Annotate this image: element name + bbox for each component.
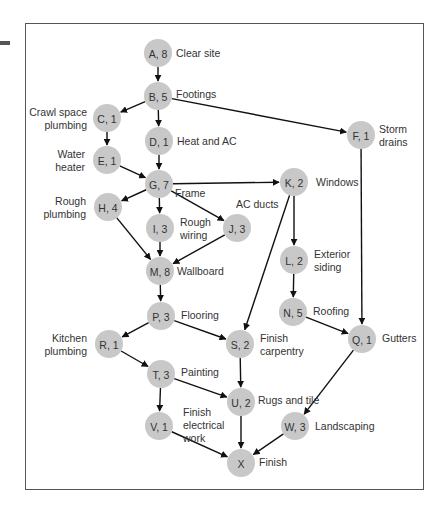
node-description: Kitchen [52,332,87,344]
node-description: Roofing [313,305,349,317]
node-description: carpentry [260,345,305,357]
node-description: AC ducts [236,198,279,210]
node-description: Heat and AC [177,135,237,147]
node-description: Storm [379,123,407,135]
node-description: Flooring [181,309,219,321]
node-description: Landscaping [315,420,375,432]
node-description: heater [55,161,85,173]
node-m: M, 8Wallboard [146,257,224,285]
node-description: wiring [179,229,208,241]
node-id-label: R, 1 [99,339,118,351]
edge-arrow-p-r [122,323,148,337]
node-description: Rugs and tile [258,394,319,406]
node-id-label: Q, 1 [352,334,372,346]
edge-arrow-h-m [117,218,151,259]
node-id-label: A, 8 [149,48,168,60]
node-id-label: P, 3 [152,311,169,323]
node-k: K, 2Windows [280,168,359,196]
node-description: Exterior [314,248,351,260]
node-r: R, 1Kitchenplumbing [44,330,123,358]
node-c: C, 1Crawl spaceplumbing [29,104,121,132]
node-id-label: H, 4 [98,202,117,214]
node-h: H, 4Roughplumbing [43,193,122,221]
node-description: drains [379,136,408,148]
node-a: A, 8Clear site [144,39,221,67]
node-description: Finish [260,332,288,344]
edge-arrow-b-c [121,102,145,113]
node-v: V, 1Finishelectricalwork [145,406,224,444]
edge-arrow-n-q [306,317,348,333]
edge-arrow-s-u [240,358,241,387]
node-description: Footings [176,88,216,100]
node-id-label: N, 5 [283,307,302,319]
node-description: Windows [316,176,359,188]
node-id-label: F, 1 [353,130,370,142]
node-id-label: S, 2 [231,339,250,351]
edge-arrow-w-x [253,434,283,455]
node-description: Finish [183,406,211,418]
node-id-label: I, 3 [153,223,168,235]
edge-arrow-f-q [361,149,362,324]
node-g: G, 7Frame [145,170,205,199]
node-layer: A, 8Clear siteB, 5FootingsC, 1Crawl spac… [29,39,416,477]
node-id-label: D, 1 [149,136,168,148]
node-description: Gutters [382,332,416,344]
node-description: Clear site [176,47,221,59]
edge-arrow-b-f [172,99,347,133]
node-id-label: B, 5 [149,91,168,103]
node-description: plumbing [43,208,86,220]
node-d: D, 1Heat and AC [145,127,237,155]
node-description: Wallboard [177,265,224,277]
node-id-label: G, 7 [149,179,169,191]
node-description: Painting [181,366,219,378]
node-e: E, 1Waterheater [55,146,121,174]
node-id-label: V, 1 [150,421,168,433]
node-t: T, 3Painting [147,360,219,388]
node-description: plumbing [44,119,87,131]
node-id-label: U, 2 [231,397,250,409]
node-description: Water [57,148,85,160]
node-description: work [182,432,206,444]
node-id-label: L, 2 [285,255,303,267]
edge-arrow-t-v [160,388,161,411]
node-p: P, 3Flooring [147,302,219,330]
edge-arrow-e-g [120,166,146,178]
activity-network-diagram: A, 8Clear siteB, 5FootingsC, 1Crawl spac… [0,0,442,515]
node-w: W, 3Landscaping [281,412,375,440]
node-description: Finish [259,456,287,468]
node-description: Frame [175,187,205,199]
node-id-label: K, 2 [285,177,304,189]
edge-arrow-t-u [174,379,227,397]
node-s: S, 2Finishcarpentry [226,330,305,358]
node-description: Rough [55,195,86,207]
node-x: XFinish [227,449,287,477]
edge-arrow-p-s [174,321,226,339]
node-description: electrical [183,419,224,431]
node-id-label: X [237,458,244,470]
node-id-label: C, 1 [97,113,116,125]
node-q: Q, 1Gutters [348,325,416,353]
node-f: F, 1Stormdrains [347,121,408,149]
node-l: L, 2Exteriorsiding [280,246,351,274]
edge-arrow-r-t [121,351,148,367]
node-description: Rough [180,216,211,228]
node-id-label: W, 3 [284,421,305,433]
node-j: J, 3AC ducts [223,198,279,242]
node-id-label: J, 3 [229,223,246,235]
node-id-label: T, 3 [153,369,170,381]
node-description: siding [314,261,342,273]
node-id-label: M, 8 [150,266,171,278]
node-description: plumbing [44,345,87,357]
node-description: Crawl space [29,106,87,118]
edge-arrow-g-h [122,190,147,201]
node-i: I, 3Roughwiring [146,214,211,242]
edge-arrow-g-k [173,182,279,184]
node-id-label: E, 1 [98,155,117,167]
node-n: N, 5Roofing [279,298,349,326]
